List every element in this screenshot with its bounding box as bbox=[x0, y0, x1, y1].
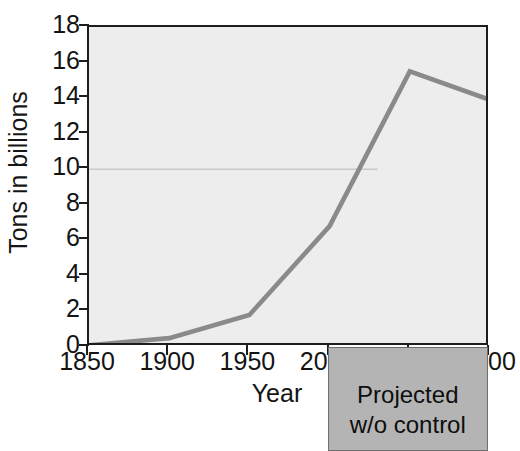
plot-svg bbox=[89, 27, 488, 345]
y-tick-label: 8 bbox=[36, 190, 80, 215]
y-axis-title: Tons in billions bbox=[0, 0, 36, 345]
y-tick-label: 10 bbox=[36, 154, 80, 179]
y-axis-title-text: Tons in billions bbox=[4, 91, 33, 254]
x-axis-title: Year bbox=[222, 381, 332, 406]
x-tick-label: 1950 bbox=[207, 349, 287, 374]
projected-line-2: w/o control bbox=[328, 410, 488, 440]
y-tick-label: 2 bbox=[36, 296, 80, 321]
projected-region-label: Projected w/o control bbox=[328, 380, 488, 440]
y-tick-label: 18 bbox=[36, 12, 80, 37]
y-tick-label: 12 bbox=[36, 119, 80, 144]
emissions-line bbox=[89, 71, 488, 345]
plot-area bbox=[87, 25, 488, 345]
y-tick-label: 6 bbox=[36, 225, 80, 250]
y-axis-tick-labels: 024681012141618 bbox=[34, 0, 80, 451]
projected-line-1: Projected bbox=[328, 380, 488, 410]
x-tick-label: 1850 bbox=[47, 349, 127, 374]
x-tick-label: 1900 bbox=[127, 349, 207, 374]
y-tick-label: 4 bbox=[36, 261, 80, 286]
y-tick-label: 16 bbox=[36, 48, 80, 73]
y-tick-label: 14 bbox=[36, 83, 80, 108]
